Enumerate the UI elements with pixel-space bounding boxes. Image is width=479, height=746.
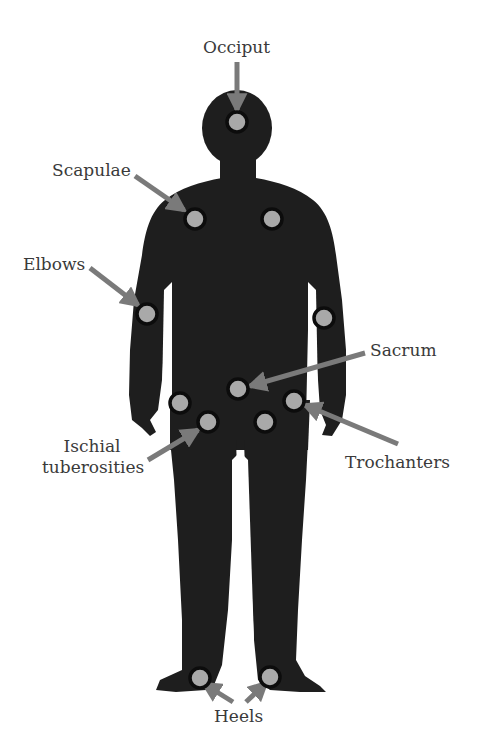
point-scapula-left <box>185 209 205 229</box>
point-scapula-right <box>262 209 282 229</box>
right-leg-shape <box>244 440 326 692</box>
label-ischial-tuberosities: Ischial tuberosities <box>42 436 142 478</box>
label-elbows: Elbows <box>23 254 85 275</box>
label-sacrum: Sacrum <box>370 340 437 361</box>
left-leg-shape <box>156 440 237 692</box>
label-scapulae: Scapulae <box>52 160 131 181</box>
label-ischial-line1: Ischial <box>42 436 142 457</box>
label-occiput: Occiput <box>203 37 270 58</box>
point-ischial-left <box>198 412 218 432</box>
arrow-heel-left <box>204 684 233 702</box>
arrow-trochanters <box>305 405 398 444</box>
point-sacrum <box>228 379 248 399</box>
point-heel-right <box>260 667 280 687</box>
pressure-points-diagram: Occiput Scapulae Elbows Sacrum Ischial t… <box>0 0 479 746</box>
point-elbow-right <box>314 308 334 328</box>
point-elbow-left <box>137 304 157 324</box>
arrow-elbows <box>90 268 138 305</box>
point-occiput <box>227 112 247 132</box>
point-ischial-right <box>255 412 275 432</box>
body-silhouette-figure <box>0 0 479 746</box>
point-heel-left <box>190 668 210 688</box>
point-trochanter-left <box>170 393 190 413</box>
label-ischial-line2: tuberosities <box>42 457 142 478</box>
point-trochanter-right <box>284 391 304 411</box>
label-heels: Heels <box>214 706 263 727</box>
label-trochanters: Trochanters <box>345 452 450 473</box>
